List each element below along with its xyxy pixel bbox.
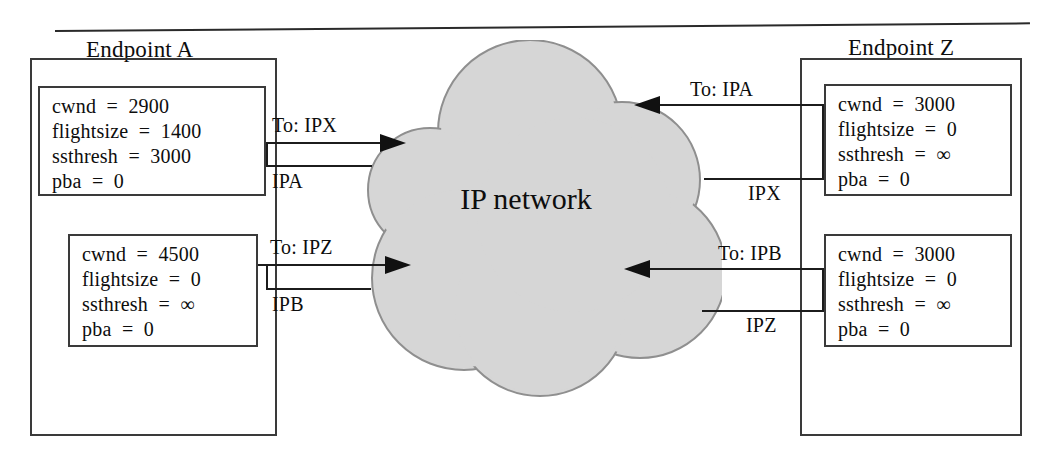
link-z2-src-label: IPZ (746, 314, 777, 336)
state-line-pba: pba = 0 (838, 317, 1010, 342)
link-z2-stub (822, 268, 824, 312)
top-divider-rule (55, 22, 1030, 32)
state-line-cwnd: cwnd = 4500 (82, 242, 256, 267)
link-z2-arrowhead-icon (624, 260, 650, 278)
link-z2-src-line (702, 310, 824, 312)
link-z1-stub (822, 104, 824, 180)
state-line-flightsize: flightsize = 1400 (52, 119, 264, 144)
ip-network-cloud (322, 40, 722, 400)
cloud-label: IP network (436, 182, 616, 216)
link-a1-line (266, 142, 389, 144)
link-a1-src-label: IPA (272, 170, 303, 192)
state-line-ssthresh: ssthresh = ∞ (838, 292, 1010, 317)
link-a2-arrowhead-icon (385, 256, 411, 274)
state-line-cwnd: cwnd = 3000 (838, 242, 1010, 267)
diagram-canvas: IP network Endpoint A cwnd = 2900 flight… (0, 0, 1043, 461)
state-line-flightsize: flightsize = 0 (82, 267, 256, 292)
link-a1-stub (266, 142, 268, 167)
link-z1-line (650, 104, 824, 106)
state-line-ssthresh: ssthresh = ∞ (82, 292, 256, 317)
link-z1-src-label: IPX (748, 182, 781, 204)
state-line-flightsize: flightsize = 0 (838, 117, 1010, 142)
link-z1-to-label: To: IPA (690, 78, 753, 100)
link-a1-arrowhead-icon (380, 134, 406, 152)
state-line-pba: pba = 0 (82, 317, 256, 342)
link-z2-line (640, 268, 824, 270)
link-a2-line (258, 264, 394, 266)
link-z1-arrowhead-icon (634, 96, 660, 114)
link-z1-src-line (704, 178, 824, 180)
endpoint-z-state-box-1: cwnd = 3000 flightsize = 0 ssthresh = ∞ … (824, 84, 1012, 196)
state-line-ssthresh: ssthresh = ∞ (838, 142, 1010, 167)
state-line-pba: pba = 0 (838, 167, 1010, 192)
state-line-flightsize: flightsize = 0 (838, 267, 1010, 292)
state-line-cwnd: cwnd = 2900 (52, 94, 264, 119)
link-a2-src-label: IPB (272, 293, 304, 315)
state-line-pba: pba = 0 (52, 169, 264, 194)
link-z2-to-label: To: IPB (718, 242, 782, 264)
link-a2-src-line (266, 288, 371, 290)
link-a2-to-label: To: IPZ (270, 236, 333, 258)
endpoint-a-state-box-2: cwnd = 4500 flightsize = 0 ssthresh = ∞ … (68, 234, 258, 347)
endpoint-z-title: Endpoint Z (848, 36, 954, 60)
cloud-shape-svg (322, 40, 722, 400)
link-a1-src-line (266, 165, 372, 167)
link-a2-stub (266, 264, 268, 290)
endpoint-z-state-box-2: cwnd = 3000 flightsize = 0 ssthresh = ∞ … (824, 234, 1012, 347)
state-line-ssthresh: ssthresh = 3000 (52, 144, 264, 169)
endpoint-a-state-box-1: cwnd = 2900 flightsize = 1400 ssthresh =… (38, 86, 266, 196)
state-line-cwnd: cwnd = 3000 (838, 92, 1010, 117)
link-a1-to-label: To: IPX (272, 114, 337, 136)
